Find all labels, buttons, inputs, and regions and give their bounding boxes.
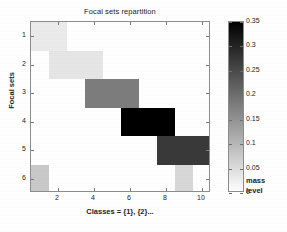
colorbar-tick-mark xyxy=(240,71,243,72)
y-tick-label: 2 xyxy=(17,60,26,68)
colorbar-tick-mark xyxy=(240,22,243,23)
colorbar-tick-mark xyxy=(229,144,232,145)
y-axis-label: Focal sets xyxy=(7,61,16,121)
colorbar-tick-mark xyxy=(229,46,232,47)
colorbar-tick-label: 0.35 xyxy=(246,17,260,25)
heatmap-cell xyxy=(121,108,175,137)
y-tick-label: 3 xyxy=(17,88,26,96)
y-axis-tick-mark xyxy=(206,65,209,66)
colorbar-tick-label: 0.25 xyxy=(246,66,260,74)
x-axis-tick-mark xyxy=(202,188,203,191)
x-axis-tick-mark xyxy=(166,22,167,25)
heatmap-cell xyxy=(31,22,67,51)
x-tick-label: 6 xyxy=(121,194,137,202)
matlab-figure-canvas: Focal sets repartition 246810 123456 Cla… xyxy=(0,0,287,232)
colorbar-tick-mark xyxy=(229,22,232,23)
colorbar-tick-mark xyxy=(240,120,243,121)
x-tick-label: 4 xyxy=(85,194,101,202)
y-tick-label: 4 xyxy=(17,117,26,125)
x-axis-tick-mark xyxy=(58,188,59,191)
colorbar-tick-label: 0.15 xyxy=(246,115,260,123)
heatmap-cell xyxy=(49,51,103,80)
y-axis-tick-mark xyxy=(31,179,34,180)
colorbar-tick-mark xyxy=(240,144,243,145)
colorbar-tick-label: 0.05 xyxy=(246,164,260,172)
x-axis-tick-mark xyxy=(94,22,95,25)
y-axis-tick-mark xyxy=(31,36,34,37)
x-axis-label: Classes = {1}, {2}... xyxy=(30,207,210,216)
x-axis-tick-mark xyxy=(58,22,59,25)
y-axis-tick-mark xyxy=(206,93,209,94)
x-tick-label: 2 xyxy=(49,194,65,202)
y-tick-label: 1 xyxy=(17,31,26,39)
colorbar-title: mass level xyxy=(246,176,265,195)
y-axis-tick-mark xyxy=(31,122,34,123)
heatmap-cell xyxy=(175,165,193,193)
y-tick-label: 6 xyxy=(17,174,26,182)
page-title: Focal sets repartition xyxy=(30,7,210,16)
colorbar-gradient[interactable] xyxy=(228,21,244,192)
y-axis-tick-mark xyxy=(31,150,34,151)
colorbar-tick-mark xyxy=(229,169,232,170)
x-tick-label: 10 xyxy=(193,194,209,202)
y-tick-label: 5 xyxy=(17,145,26,153)
x-axis-tick-mark xyxy=(94,188,95,191)
x-axis-tick-mark xyxy=(166,188,167,191)
colorbar-tick-mark xyxy=(229,193,232,194)
x-axis-tick-mark xyxy=(202,22,203,25)
colorbar-tick-mark xyxy=(229,71,232,72)
y-axis-tick-mark xyxy=(206,122,209,123)
colorbar-title-line-2: level xyxy=(246,186,265,196)
colorbar-tick-label: 0.1 xyxy=(246,139,256,147)
y-axis-tick-mark xyxy=(206,36,209,37)
y-axis-tick-mark xyxy=(31,65,34,66)
colorbar-tick-mark xyxy=(229,120,232,121)
x-tick-label: 8 xyxy=(157,194,173,202)
heatmap-cell xyxy=(85,79,139,108)
y-axis-tick-mark xyxy=(206,179,209,180)
colorbar-tick-mark xyxy=(240,193,243,194)
colorbar-tick-mark xyxy=(240,169,243,170)
colorbar-tick-mark xyxy=(240,95,243,96)
x-axis-tick-mark xyxy=(130,22,131,25)
colorbar-title-line-1: mass xyxy=(246,176,265,186)
x-axis-tick-mark xyxy=(130,188,131,191)
y-axis-tick-mark xyxy=(31,93,34,94)
heatmap-cell xyxy=(157,136,210,165)
heatmap-cells-layer xyxy=(31,22,209,191)
colorbar-tick-label: 0.2 xyxy=(246,90,256,98)
colorbar-tick-mark xyxy=(229,95,232,96)
y-axis-tick-mark xyxy=(206,150,209,151)
colorbar-tick-label: 0.3 xyxy=(246,41,256,49)
colorbar-tick-mark xyxy=(240,46,243,47)
heatmap-plot-area[interactable] xyxy=(30,21,210,192)
